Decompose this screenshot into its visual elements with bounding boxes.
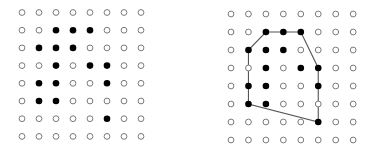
empty-point	[333, 119, 339, 125]
empty-point	[246, 11, 252, 17]
empty-point	[350, 11, 356, 17]
filled-point	[315, 119, 322, 126]
filled-point	[245, 83, 252, 90]
empty-point	[350, 101, 356, 107]
empty-point	[315, 101, 321, 107]
empty-point	[315, 47, 321, 53]
empty-point	[280, 101, 286, 107]
empty-point	[228, 47, 234, 53]
empty-point	[263, 137, 269, 143]
filled-point	[280, 47, 287, 54]
empty-point	[298, 137, 304, 143]
empty-point	[263, 11, 269, 17]
empty-point	[246, 137, 252, 143]
empty-point	[228, 137, 234, 143]
convex-hull-polygon	[248, 32, 318, 122]
empty-point	[298, 101, 304, 107]
empty-point	[246, 29, 252, 35]
empty-point	[228, 83, 234, 89]
empty-point	[263, 119, 269, 125]
empty-point	[350, 47, 356, 53]
empty-point	[280, 11, 286, 17]
empty-point	[333, 101, 339, 107]
empty-point	[315, 137, 321, 143]
filled-point	[280, 29, 287, 36]
empty-point	[333, 11, 339, 17]
empty-point	[333, 83, 339, 89]
empty-point	[333, 65, 339, 71]
empty-point	[298, 11, 304, 17]
empty-point	[315, 29, 321, 35]
empty-point	[228, 101, 234, 107]
empty-point	[333, 137, 339, 143]
empty-point	[315, 11, 321, 17]
filled-point	[315, 65, 322, 72]
filled-point	[315, 83, 322, 90]
empty-point	[298, 119, 304, 125]
filled-point	[245, 101, 252, 108]
filled-point	[298, 65, 305, 72]
convex-hull-figure	[0, 0, 374, 151]
empty-point	[280, 137, 286, 143]
filled-point	[263, 83, 270, 90]
empty-point	[246, 119, 252, 125]
empty-point	[280, 119, 286, 125]
empty-point	[298, 83, 304, 89]
filled-point	[263, 101, 270, 108]
filled-point	[263, 29, 270, 36]
empty-point	[280, 83, 286, 89]
empty-point	[350, 29, 356, 35]
filled-point	[263, 65, 270, 72]
convex-hull-panel	[0, 0, 374, 151]
filled-point	[298, 29, 305, 36]
empty-point	[350, 119, 356, 125]
empty-point	[350, 83, 356, 89]
empty-point	[228, 11, 234, 17]
empty-point	[333, 29, 339, 35]
empty-point	[298, 47, 304, 53]
empty-point	[350, 65, 356, 71]
empty-point	[228, 65, 234, 71]
empty-point	[333, 47, 339, 53]
filled-point	[245, 47, 252, 54]
empty-point	[228, 29, 234, 35]
empty-point	[350, 137, 356, 143]
empty-point	[246, 65, 252, 71]
empty-point	[280, 65, 286, 71]
filled-point	[263, 47, 270, 54]
empty-point	[228, 119, 234, 125]
